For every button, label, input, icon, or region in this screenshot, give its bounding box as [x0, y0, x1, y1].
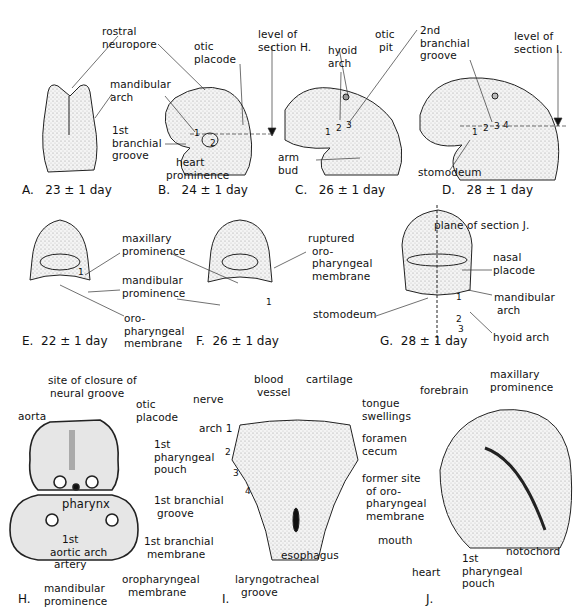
label-aorta: aorta	[18, 410, 46, 423]
label-forebrain: forebrain	[420, 384, 469, 397]
label-site-closure-neural-groove: site of closure ofneural groove	[48, 374, 137, 399]
label-plane-section-j: plane of section J.	[434, 219, 529, 232]
label-rostral-neuropore: rostralneuropore	[102, 25, 157, 50]
arch-number-e-1: 1	[78, 266, 84, 279]
arch-number-d-4: 4	[503, 119, 509, 132]
arch-number-d-2: 2	[483, 122, 489, 135]
arch-number-i-4: 4	[245, 485, 251, 498]
label-first-pharyngeal-pouch-h: 1stpharyngealpouch	[154, 438, 214, 476]
label-maxillary-prominence-j: maxillaryprominence	[490, 368, 553, 393]
label-second-branchial-groove: 2ndbranchialgroove	[420, 24, 470, 62]
panel-i-caption: I.	[222, 592, 229, 606]
label-notochord: notochord	[506, 545, 560, 558]
label-foramen-cecum: foramencecum	[362, 432, 407, 457]
label-oropharyngeal-membrane-h: oropharyngealmembrane	[122, 573, 200, 598]
label-mouth: mouth	[378, 534, 413, 547]
label-laryngotracheal-groove: laryngotrachealgroove	[235, 573, 319, 598]
label-oropharyngeal-membrane-e: oro-pharyngealmembrane	[124, 312, 184, 350]
panel-d-caption: D. 28 ± 1 day	[442, 183, 533, 197]
label-first-pharyngeal-pouch-j: 1stpharyngealpouch	[462, 552, 522, 590]
label-heart: heart	[412, 566, 440, 579]
label-otic-placode-h: oticplacode	[136, 398, 178, 423]
label-blood-vessel: bloodvessel	[254, 373, 291, 398]
label-former-site-membrane: former siteof oro-pharyngealmembrane	[362, 472, 426, 522]
panel-c-embryo	[285, 88, 402, 175]
arch-number-g-1: 1	[456, 291, 462, 304]
arch-number-c-3: 3	[346, 119, 352, 132]
label-maxillary-prominence-e: maxillaryprominence	[122, 232, 185, 257]
arch-number-b-2: 2	[210, 137, 216, 150]
label-hyoid-arch-g: hyoid arch	[493, 331, 549, 344]
label-first-branchial-groove-b: 1stbranchialgroove	[112, 124, 162, 162]
label-heart-prominence: heartprominence	[166, 156, 229, 181]
panel-a-embryo	[43, 85, 97, 172]
label-hyoid-arch-c: hyoidarch	[328, 44, 357, 69]
label-mandibular-arch-g: mandibulararch	[494, 291, 555, 316]
label-mandibular-prominence-e: mandibularprominence	[122, 274, 185, 299]
arch-number-i-3: 3	[233, 467, 239, 480]
arch-number-b-1: 1	[194, 127, 200, 140]
label-nerve: nerve	[193, 393, 224, 406]
label-arm-bud: armbud	[278, 151, 299, 176]
label-pharynx: pharynx	[62, 498, 110, 511]
label-stomodeum-d: stomodeum	[418, 166, 482, 179]
arch-number-d-1: 1	[472, 126, 478, 139]
panel-h-caption: H.	[18, 592, 31, 606]
label-level-section-h: level ofsection H.	[258, 28, 311, 53]
panel-g-caption: G. 28 ± 1 day	[380, 334, 467, 348]
label-level-section-i: level ofsection I.	[514, 30, 563, 55]
arch-number-d-3: 3	[494, 120, 500, 133]
label-mandibular-prominence-h: mandibularprominence	[44, 582, 107, 607]
label-first-branchial-groove-h: 1st branchialgroove	[154, 494, 224, 519]
panel-f-caption: F. 26 ± 1 day	[196, 334, 279, 348]
label-tongue-swellings: tongueswellings	[362, 397, 411, 422]
panel-d-embryo	[420, 78, 559, 180]
panel-a-caption: A. 23 ± 1 day	[22, 183, 112, 197]
panel-f-face	[208, 220, 272, 282]
panel-e-caption: E. 22 ± 1 day	[22, 334, 108, 348]
label-ruptured-membrane: rupturedoro-pharyngealmembrane	[308, 232, 372, 282]
label-nasal-placode: nasalplacode	[493, 251, 535, 276]
label-arch-1: arch 1	[199, 422, 233, 435]
arch-number-i-2: 2	[225, 446, 231, 459]
label-otic-placode-b: oticplacode	[194, 40, 236, 65]
panel-j-caption: J.	[426, 592, 433, 606]
arch-number-g-3: 3	[458, 323, 464, 336]
panel-b-caption: B. 24 ± 1 day	[158, 183, 248, 197]
arch-number-c-2: 2	[336, 122, 342, 135]
label-otic-pit: oticpit	[375, 28, 395, 53]
label-first-aortic-arch-artery: 1staortic archartery	[50, 533, 107, 571]
label-stomodeum-g: stomodeum	[313, 308, 377, 321]
label-esophagus: esophagus	[281, 549, 339, 562]
label-cartilage: cartilage	[306, 373, 353, 386]
panel-j-sagittal	[440, 410, 572, 548]
label-first-branchial-membrane: 1st branchialmembrane	[144, 535, 214, 560]
panel-c-caption: C. 26 ± 1 day	[295, 183, 385, 197]
label-mandibular-arch-a: mandibulararch	[110, 78, 171, 103]
arch-number-c-1: 1	[325, 126, 331, 139]
arch-number-f-1: 1	[266, 296, 272, 309]
